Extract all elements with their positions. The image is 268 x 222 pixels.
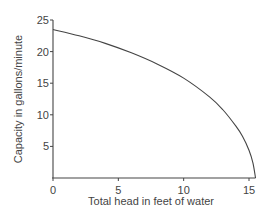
y-tick-label: 25: [37, 14, 49, 26]
y-tick-label: 10: [37, 109, 49, 121]
y-tick-label: 15: [37, 77, 49, 89]
y-axis: 510152025: [37, 14, 53, 178]
capacity-curve: [53, 29, 256, 178]
y-tick-label: 20: [37, 46, 49, 58]
chart: 510152025 051015 Capacity in gallons/min…: [0, 0, 268, 222]
x-axis-label: Total head in feet of water: [88, 195, 214, 207]
y-axis-label: Capacity in gallons/minute: [12, 35, 24, 163]
x-tick-label: 0: [50, 184, 56, 196]
y-tick-label: 5: [43, 140, 49, 152]
x-tick-label: 15: [243, 184, 255, 196]
x-axis: 051015: [50, 178, 256, 196]
